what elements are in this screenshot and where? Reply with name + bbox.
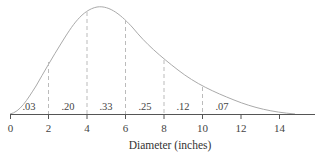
prob-label-10-plus: .07: [215, 101, 228, 112]
prob-label-4-6: .33: [99, 101, 112, 112]
x-tick-2: 2: [46, 123, 52, 134]
x-tick-12: 12: [236, 123, 247, 134]
x-tick-6: 6: [123, 123, 129, 134]
x-tick-0: 0: [8, 123, 14, 134]
x-tick-10: 10: [197, 123, 208, 134]
x-tick-8: 8: [161, 123, 167, 134]
prob-label-8-10: .12: [176, 101, 189, 112]
prob-label-6-8: .25: [138, 101, 151, 112]
x-axis-label: Diameter (inches): [129, 139, 212, 151]
prob-label-0-2: .03: [22, 101, 35, 112]
x-tick-4: 4: [84, 123, 90, 134]
prob-label-2-4: .20: [61, 101, 74, 112]
density-curve-plot: [0, 0, 320, 160]
x-tick-14: 14: [274, 123, 285, 134]
density-curve: [10, 7, 295, 114]
